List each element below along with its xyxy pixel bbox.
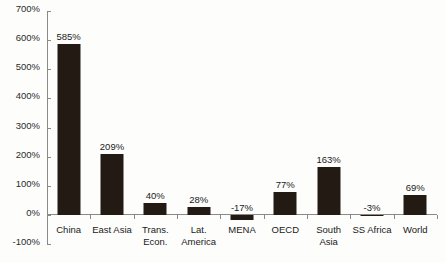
- x-axis-tick-mark: [437, 215, 438, 219]
- bar: [230, 215, 253, 220]
- bar: [317, 167, 340, 214]
- bar-value-label: -3%: [364, 202, 381, 213]
- bar: [360, 215, 383, 217]
- y-axis-tick-label: 400%: [16, 91, 40, 101]
- bar: [274, 192, 297, 214]
- bar: [404, 195, 427, 215]
- bar: [187, 207, 210, 215]
- bar-value-label: 28%: [189, 194, 208, 205]
- bar-value-label: 163%: [317, 154, 341, 165]
- bar: [57, 44, 80, 214]
- y-axis-tick-label: 500%: [16, 62, 40, 72]
- bar-value-label: 585%: [57, 31, 81, 42]
- plot-area: 585%209%40%28%-17%77%163%-3%69%: [47, 11, 437, 244]
- bar-value-label: 209%: [100, 141, 124, 152]
- bar-group: 69%: [394, 11, 437, 244]
- bar: [144, 203, 167, 215]
- bar-value-label: 69%: [406, 182, 425, 193]
- y-axis-tick-label: 700%: [16, 4, 40, 14]
- x-axis-category-label: MENA: [220, 224, 263, 236]
- x-axis-category-label: East Asia: [90, 224, 133, 236]
- x-axis-category-label: World: [394, 224, 437, 236]
- bar-value-label: 40%: [146, 190, 165, 201]
- y-axis-tick-label: 300%: [16, 121, 40, 131]
- y-axis-tick-label: 200%: [16, 150, 40, 160]
- bar-group: -3%: [350, 11, 393, 244]
- bar-group: 163%: [307, 11, 350, 244]
- bar-group: 585%: [47, 11, 90, 244]
- bar-group: 77%: [264, 11, 307, 244]
- x-axis-category-label: Lat. America: [177, 224, 220, 247]
- bar-group: -17%: [220, 11, 263, 244]
- x-axis-category-label: Trans. Econ.: [134, 224, 177, 247]
- x-axis-category-label: China: [47, 224, 90, 236]
- bar-chart: 700%600%500%400%300%200%100%0%-100% 585%…: [0, 0, 446, 263]
- y-axis-tick-label: 600%: [16, 33, 40, 43]
- x-axis-category-label: SS Africa: [350, 224, 393, 236]
- y-axis-tick-label: -100%: [13, 237, 40, 247]
- bar-group: 28%: [177, 11, 220, 244]
- y-axis-tick-mark: [47, 244, 51, 245]
- bar: [100, 154, 123, 215]
- x-axis-category-label: South Asia: [307, 224, 350, 247]
- y-axis-tick-label: 0%: [26, 208, 40, 218]
- bar-group: 40%: [134, 11, 177, 244]
- y-axis-tick-label: 100%: [16, 179, 40, 189]
- x-axis-category-label: OECD: [264, 224, 307, 236]
- bar-value-label: -17%: [231, 202, 253, 213]
- bar-group: 209%: [90, 11, 133, 244]
- bar-value-label: 77%: [276, 179, 295, 190]
